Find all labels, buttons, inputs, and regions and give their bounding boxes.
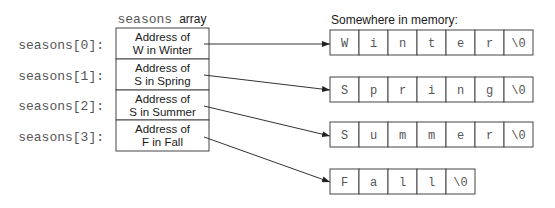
char-value: g (486, 84, 493, 98)
string-winter: Winter\0 (330, 30, 533, 55)
seasons-array-diagram: seasons array Somewhere in memory: Addre… (0, 0, 555, 208)
address-line-2: S in Summer (129, 106, 196, 118)
char-value: m (399, 129, 406, 143)
address-line-1: Address of (135, 62, 191, 74)
string-spring: Spring\0 (330, 77, 533, 102)
array-element-0: Address ofW in Winterseasons[0]: (18, 28, 209, 59)
char-value: S (341, 129, 348, 143)
index-label: seasons[3]: (18, 130, 104, 145)
address-line-2: S in Spring (134, 75, 190, 87)
address-line-2: F in Fall (142, 136, 183, 148)
char-value: l (428, 176, 435, 190)
array-element-1: Address ofS in Springseasons[1]: (18, 59, 209, 90)
array-title-name: seasons (118, 12, 173, 27)
char-value: e (457, 129, 464, 143)
diagram-svg: seasons array Somewhere in memory: Addre… (0, 0, 555, 208)
pointer-arrow-2 (204, 106, 330, 136)
char-value: r (399, 84, 406, 98)
char-value: r (486, 129, 493, 143)
strings-group: Winter\0Spring\0Summer\0Fall\0 (330, 30, 533, 194)
address-line-1: Address of (135, 31, 191, 43)
index-label: seasons[1]: (18, 69, 104, 84)
string-fall: Fall\0 (330, 169, 475, 194)
array-title: seasons array (118, 9, 207, 27)
char-value: a (370, 176, 377, 190)
index-label: seasons[0]: (18, 38, 104, 53)
char-value: e (457, 37, 464, 51)
null-terminator: \0 (511, 84, 525, 98)
array-element-3: Address ofF in Fallseasons[3]: (18, 120, 209, 151)
char-value: F (341, 176, 348, 190)
array-title-suffix: array (179, 12, 206, 26)
array-element-2: Address ofS in Summerseasons[2]: (18, 90, 209, 120)
char-value: W (341, 37, 349, 51)
char-value: i (428, 84, 435, 98)
char-value: i (370, 37, 377, 51)
char-value: n (457, 84, 464, 98)
index-label: seasons[2]: (18, 99, 104, 114)
char-value: u (370, 129, 377, 143)
char-value: l (399, 176, 406, 190)
char-value: m (428, 129, 435, 143)
address-line-1: Address of (135, 93, 191, 105)
null-terminator: \0 (511, 129, 525, 143)
char-value: S (341, 84, 348, 98)
address-line-1: Address of (135, 123, 191, 135)
memory-title: Somewhere in memory: (331, 13, 458, 27)
null-terminator: \0 (511, 37, 525, 51)
arrows-group (204, 44, 330, 182)
pointer-arrow-3 (204, 137, 330, 182)
char-value: p (370, 84, 377, 98)
array-group: Address ofW in Winterseasons[0]:Address … (18, 28, 209, 151)
char-value: r (486, 37, 493, 51)
null-terminator: \0 (453, 176, 467, 190)
string-summer: Summer\0 (330, 122, 533, 147)
char-value: n (399, 37, 406, 51)
address-line-2: W in Winter (133, 44, 193, 56)
char-value: t (428, 37, 435, 51)
pointer-arrow-1 (204, 75, 330, 90)
